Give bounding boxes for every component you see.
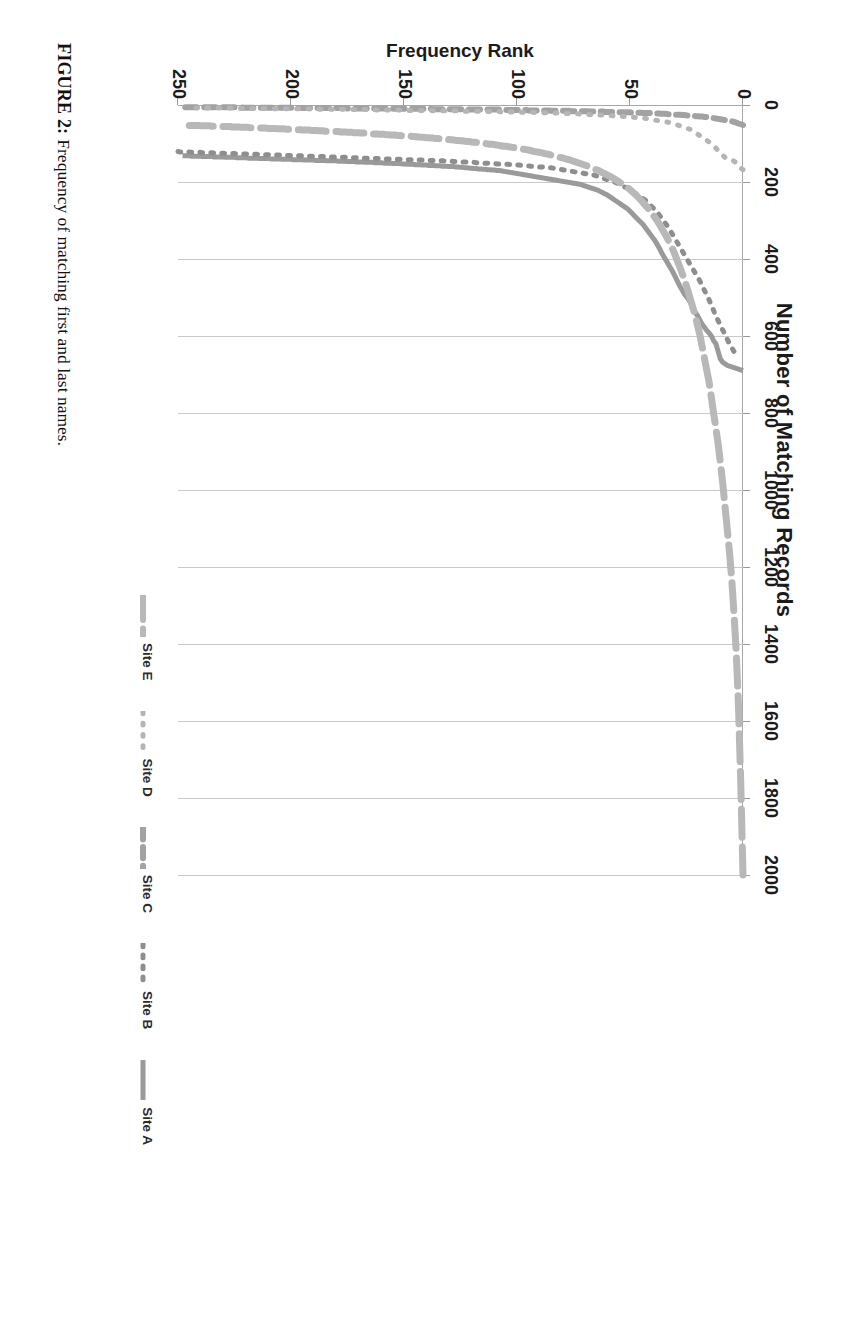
x-tick-label: 1000	[760, 470, 781, 510]
legend-item-site-e[interactable]: Site E	[140, 595, 155, 681]
x-tick-mark	[743, 259, 750, 260]
y-tick-mark	[177, 98, 178, 105]
series-curves	[178, 105, 743, 875]
legend-swatch-icon	[143, 827, 153, 869]
legend-item-site-a[interactable]: Site A	[140, 1059, 155, 1145]
legend-label: Site A	[140, 1107, 155, 1145]
series-line-site-e	[189, 125, 743, 875]
x-tick-label: 1600	[760, 701, 781, 741]
legend-label: Site E	[140, 643, 155, 681]
figure-caption-label: FIGURE 2:	[54, 43, 75, 134]
y-tick-mark	[516, 98, 517, 105]
x-tick-label: 0	[760, 100, 781, 110]
x-tick-mark	[743, 182, 750, 183]
x-tick-mark	[743, 644, 750, 645]
x-tick-label: 1800	[760, 778, 781, 818]
x-tick-label: 400	[760, 244, 781, 274]
legend-item-site-b[interactable]: Site B	[140, 943, 155, 1029]
legend-item-site-d[interactable]: Site D	[140, 711, 155, 797]
x-tick-mark	[743, 413, 750, 414]
legend-swatch-icon	[143, 595, 153, 637]
y-tick-mark	[403, 98, 404, 105]
y-tick-label: 150	[394, 59, 415, 99]
chart: Number of Matching Records 0200400600800…	[113, 0, 803, 965]
x-tick-mark	[743, 490, 750, 491]
x-tick-mark	[743, 721, 750, 722]
figure-page: FIGURE 2: Frequency of matching first an…	[0, 0, 864, 1324]
x-tick-label: 800	[760, 398, 781, 428]
y-tick-label: 100	[507, 59, 528, 99]
series-line-site-a	[183, 156, 743, 371]
series-line-site-b	[178, 152, 734, 352]
x-tick-label: 600	[760, 321, 781, 351]
y-tick-mark	[290, 98, 291, 105]
legend-label: Site D	[140, 759, 155, 797]
x-tick-label: 1400	[760, 624, 781, 664]
y-tick-label: 200	[281, 59, 302, 99]
y-tick-label: 0	[733, 59, 754, 99]
figure-caption-text: Frequency of matching first and last nam…	[54, 139, 75, 446]
chart-legend: Site ESite DSite CSite BSite A	[140, 595, 155, 1145]
y-tick-label: 250	[168, 59, 189, 99]
figure-caption: FIGURE 2: Frequency of matching first an…	[43, 43, 85, 643]
chart-rotated-wrapper: Number of Matching Records 0200400600800…	[113, 0, 803, 965]
x-tick-mark	[743, 336, 750, 337]
legend-label: Site B	[140, 991, 155, 1029]
y-axis-label: Frequency Rank	[387, 40, 535, 62]
y-tick-mark	[742, 98, 743, 105]
legend-label: Site C	[140, 875, 155, 913]
legend-swatch-icon	[143, 711, 153, 753]
x-tick-mark	[743, 567, 750, 568]
x-tick-label: 200	[760, 167, 781, 197]
x-tick-label: 1200	[760, 547, 781, 587]
legend-item-site-c[interactable]: Site C	[140, 827, 155, 913]
legend-swatch-icon	[143, 1059, 153, 1101]
gridline	[178, 875, 743, 876]
x-tick-mark	[743, 105, 750, 106]
x-tick-label: 2000	[760, 855, 781, 895]
legend-swatch-icon	[143, 943, 153, 985]
y-tick-mark	[629, 98, 630, 105]
y-tick-label: 50	[620, 59, 641, 99]
plot-area: 0200400600800100012001400160018002000 05…	[178, 105, 743, 875]
